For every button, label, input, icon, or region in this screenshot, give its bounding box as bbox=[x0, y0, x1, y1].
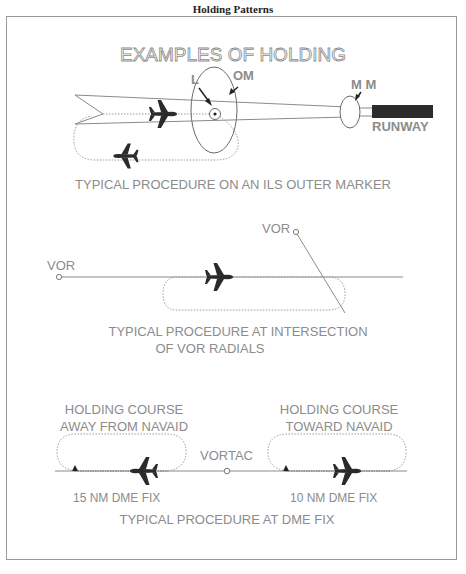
vor-left-icon bbox=[56, 274, 61, 279]
label-mm: M M bbox=[351, 77, 376, 92]
aircraft-icon bbox=[149, 100, 177, 128]
label-om: OM bbox=[233, 68, 254, 83]
caption-vor-line2: OF VOR RADIALS bbox=[155, 341, 264, 356]
runway bbox=[372, 105, 433, 118]
caption-dme: TYPICAL PROCEDURE AT DME FIX bbox=[119, 512, 334, 527]
vor-section: VOR VOR TYPICAL PROCEDURE AT INTERSECTIO… bbox=[47, 221, 403, 356]
holding-diagram: EXAMPLES OF HOLDING L OM M M RUNWAY bbox=[0, 0, 466, 574]
caption-ils: TYPICAL PROCEDURE ON AN ILS OUTER MARKER bbox=[75, 177, 391, 192]
label-vortac: VORTAC bbox=[200, 448, 253, 463]
middle-marker-ellipse bbox=[340, 96, 360, 128]
right-title-line1: HOLDING COURSE bbox=[280, 402, 399, 417]
label-10nm-fix: 10 NM DME FIX bbox=[290, 491, 377, 505]
label-15nm-fix: 15 NM DME FIX bbox=[73, 491, 160, 505]
vor-right-icon bbox=[293, 229, 298, 234]
aircraft-icon bbox=[205, 263, 233, 291]
vortac-icon bbox=[224, 468, 230, 474]
caption-vor-line1: TYPICAL PROCEDURE AT INTERSECTION bbox=[108, 324, 367, 339]
aircraft-icon bbox=[113, 143, 138, 168]
right-title-line2: TOWARD NAVAID bbox=[285, 419, 392, 434]
dme-fix-right-icon bbox=[283, 465, 289, 471]
ils-section: L OM M M RUNWAY TYPICAL PROCEDURE ON AN … bbox=[74, 67, 433, 192]
aircraft-icon bbox=[333, 457, 361, 485]
diagram-heading: EXAMPLES OF HOLDING bbox=[120, 44, 346, 65]
label-vor-left: VOR bbox=[47, 258, 75, 273]
left-title-line1: HOLDING COURSE bbox=[65, 402, 184, 417]
left-title-line2: AWAY FROM NAVAID bbox=[60, 419, 188, 434]
dme-fix-left-icon bbox=[72, 465, 78, 471]
label-vor-right: VOR bbox=[262, 221, 290, 236]
label-runway: RUNWAY bbox=[372, 119, 429, 134]
aircraft-icon bbox=[130, 457, 158, 485]
dme-section: HOLDING COURSE AWAY FROM NAVAID VORTAC H… bbox=[55, 402, 407, 527]
label-l: L bbox=[191, 72, 199, 87]
